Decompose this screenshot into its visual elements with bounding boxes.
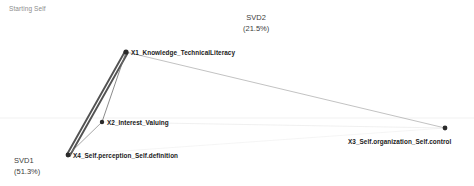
network-plot-svg xyxy=(0,0,474,186)
node-marker[interactable] xyxy=(66,153,71,158)
node-marker[interactable] xyxy=(123,49,128,54)
edge-group xyxy=(67,51,445,156)
network-edge xyxy=(67,51,125,154)
network-edge xyxy=(126,52,445,128)
node-marker-group xyxy=(66,49,448,157)
network-edge xyxy=(70,53,128,156)
network-edge xyxy=(68,128,445,155)
node-marker[interactable] xyxy=(100,120,104,124)
network-edge xyxy=(102,122,445,128)
chart-canvas: Starting Self SVD2 (21.5%) SVD1 (51.3%) … xyxy=(0,0,474,186)
node-marker[interactable] xyxy=(443,126,448,131)
